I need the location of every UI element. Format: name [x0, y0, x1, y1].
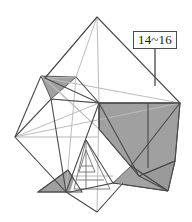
- origami-diagram: 14~16: [0, 0, 192, 222]
- callout-label-14-16: 14~16: [133, 31, 177, 49]
